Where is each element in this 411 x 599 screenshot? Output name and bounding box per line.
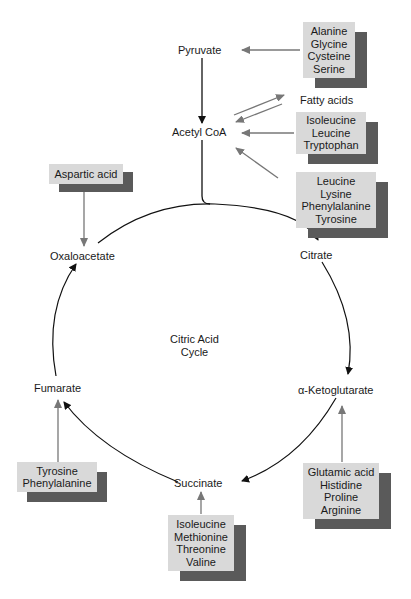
node-alpha-ketoglutarate: α-Ketoglutarate: [298, 384, 373, 397]
fumarate-to-oxaloacetate-arc: [53, 264, 76, 376]
node-pyruvate: Pyruvate: [178, 44, 221, 57]
node-citrate: Citrate: [300, 249, 332, 262]
node-oxaloacetate: Oxaloacetate: [50, 250, 115, 263]
cycle-center-label: Citric Acid Cycle: [170, 333, 219, 359]
citrate-to-akg-arc: [322, 262, 350, 374]
node-fatty-acids: Fatty acids: [300, 94, 353, 107]
node-acetyl-coa: Acetyl CoA: [172, 126, 226, 139]
node-fumarate: Fumarate: [34, 382, 81, 395]
node-succinate: Succinate: [174, 477, 222, 490]
oxaloacetate-to-citrate-arc: [98, 204, 318, 243]
